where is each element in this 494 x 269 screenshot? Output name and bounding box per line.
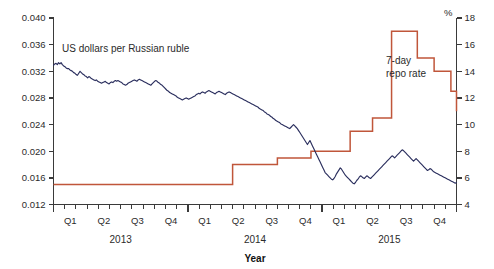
left-tick-label: 0.032 (22, 66, 46, 77)
right-tick-label: 12 (465, 92, 476, 103)
x-quarter-label: Q2 (232, 215, 245, 226)
x-axis-minor-ticks (54, 205, 457, 212)
right-tick-label: 16 (465, 39, 476, 50)
x-quarter-label: Q1 (333, 215, 346, 226)
left-tick-label: 0.040 (22, 12, 46, 23)
fx-series-annotation: US dollars per Russian ruble (62, 43, 190, 54)
x-year-label: 2013 (110, 234, 133, 245)
x-quarter-label: Q1 (64, 215, 77, 226)
usd-per-ruble-line (54, 63, 457, 184)
repo-series-annotation-line1: 7-day (386, 55, 411, 66)
x-quarter-label: Q3 (400, 215, 413, 226)
right-tick-label: 18 (465, 12, 476, 23)
right-tick-label: 10 (465, 119, 476, 130)
x-year-label: 2015 (378, 234, 401, 245)
x-quarter-label: Q1 (198, 215, 211, 226)
x-quarter-label: Q2 (366, 215, 379, 226)
x-quarter-label: Q3 (131, 215, 144, 226)
x-quarter-label: Q3 (265, 215, 278, 226)
x-quarter-label: Q4 (299, 215, 312, 226)
exchange-rate-repo-rate-chart: 0.0120.0160.0200.0240.0280.0320.0360.040… (0, 0, 494, 269)
x-axis-year-labels: 201320142015 (110, 234, 401, 245)
left-tick-label: 0.024 (22, 119, 46, 130)
left-tick-label: 0.036 (22, 39, 46, 50)
left-axis-ticks: 0.0120.0160.0200.0240.0280.0320.0360.040 (22, 12, 54, 210)
x-axis-quarter-labels: Q1Q2Q3Q4Q1Q2Q3Q4Q1Q2Q3Q4 (64, 215, 446, 226)
left-tick-label: 0.020 (22, 146, 46, 157)
right-tick-label: 4 (465, 199, 470, 210)
left-tick-label: 0.028 (22, 92, 46, 103)
right-tick-label: 6 (465, 172, 470, 183)
x-axis-title: Year (244, 253, 265, 264)
right-tick-label: 8 (465, 146, 470, 157)
right-axis-unit-label: % (444, 7, 453, 18)
right-axis-ticks: 4681012141618 (457, 12, 476, 210)
x-quarter-label: Q4 (433, 215, 446, 226)
x-year-label: 2014 (244, 234, 267, 245)
x-quarter-label: Q4 (165, 215, 178, 226)
x-quarter-label: Q2 (98, 215, 111, 226)
left-tick-label: 0.016 (22, 172, 46, 183)
left-tick-label: 0.012 (22, 199, 46, 210)
right-tick-label: 14 (465, 66, 476, 77)
chart-container: 0.0120.0160.0200.0240.0280.0320.0360.040… (0, 0, 494, 269)
repo-series-annotation-line2: repo rate (386, 68, 426, 79)
